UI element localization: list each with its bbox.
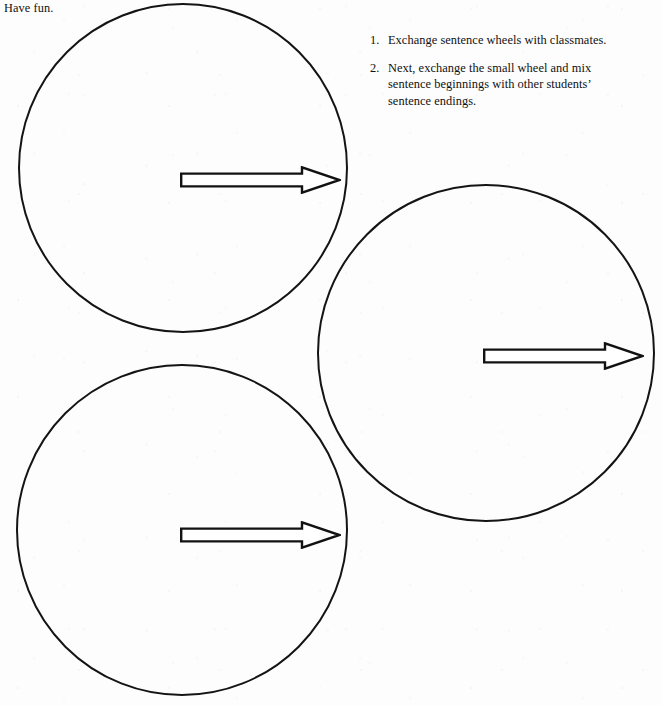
direction-arrow-bottom-left: [180, 521, 341, 549]
instruction-text: Next, exchange the small wheel and mix s…: [388, 60, 632, 110]
instruction-item-1: 1. Exchange sentence wheels with classma…: [370, 32, 632, 49]
list-marker: 2.: [370, 60, 385, 77]
page-heading: Have fun.: [4, 1, 53, 16]
direction-arrow-top-left: [180, 166, 341, 194]
instruction-item-2: 2. Next, exchange the small wheel and mi…: [370, 60, 632, 110]
direction-arrow-right: [483, 342, 644, 370]
worksheet-page: Have fun. 1. Exchange sentence wheels wi…: [0, 0, 662, 705]
list-marker: 1.: [370, 32, 385, 49]
instruction-text: Exchange sentence wheels with classmates…: [388, 32, 632, 49]
instruction-list: 1. Exchange sentence wheels with classma…: [370, 32, 632, 109]
